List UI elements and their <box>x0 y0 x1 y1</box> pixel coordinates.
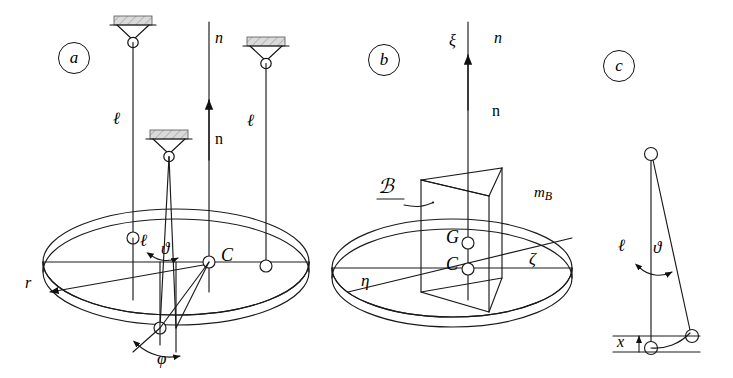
panel-label-b: b <box>368 44 400 76</box>
label-a-radius-r: r <box>25 275 31 291</box>
mass-subscript: B <box>545 189 552 203</box>
label-b-axis-n-italic: n <box>494 30 502 46</box>
label-a-wire-length-left: ℓ <box>113 110 120 127</box>
label-b-axis-eta: η <box>361 272 369 289</box>
label-b-mass-mb: mB <box>534 185 552 202</box>
mass-symbol: m <box>534 184 545 200</box>
label-c-wire-length: ℓ <box>618 237 625 254</box>
label-b-axis-xi: ξ <box>449 33 456 49</box>
label-a-center-point-c: C <box>221 246 233 264</box>
label-b-axis-zeta: ζ <box>529 250 536 267</box>
label-a-wire-length-right: ℓ <box>247 112 254 129</box>
panel-label-c: c <box>603 50 635 82</box>
label-a-wire-length-front: ℓ <box>140 232 147 249</box>
label-a-axis-n-italic: n <box>215 30 223 46</box>
label-b-body-b: ℬ <box>378 176 394 196</box>
label-a-axis-n-upright: n <box>215 131 223 147</box>
label-a-angle-phi: φ <box>157 350 166 367</box>
label-b-point-g: G <box>446 228 459 246</box>
label-c-lift-x: x <box>617 334 624 350</box>
label-c-angle-theta: ϑ <box>653 239 661 256</box>
label-a-angle-theta: ϑ <box>161 240 169 257</box>
label-b-axis-n-upright: n <box>492 103 500 119</box>
panel-label-a: a <box>58 42 90 74</box>
label-b-point-c: C <box>446 255 458 273</box>
figure-canvas: a b c ℓ ℓ ℓ n n ϑ φ C r ξ n n ℬ mB G C η… <box>0 0 733 378</box>
